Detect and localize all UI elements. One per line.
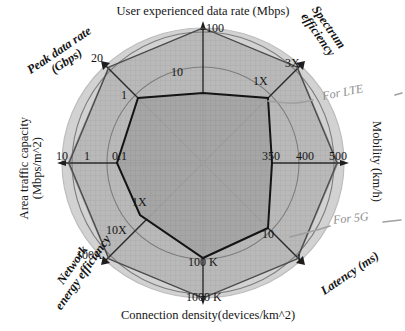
tick-connection-density-outer: 1000 K <box>186 291 222 304</box>
tick-mobility-500: 500 <box>329 150 347 163</box>
tick-atc-1: 1 <box>84 150 90 163</box>
axis-title-mobility: Mobility (km/h) <box>369 102 382 222</box>
axis-title-connection-density: Connection density(devices/km^2) <box>83 309 333 322</box>
area-traffic-line2: (Mbps/m^2) <box>31 93 44 243</box>
tick-mobility-350: 350 <box>262 150 280 163</box>
tick-atc-10: 10 <box>56 150 68 163</box>
radar-chart: User experienced data rate (Mbps) Spectr… <box>0 0 405 331</box>
tick-latency-outer: 1 <box>296 252 302 265</box>
tick-pdr-inner: 1 <box>121 89 127 102</box>
tick-udr-inner: 10 <box>171 66 183 79</box>
axis-title-area-traffic-capacity: Area traffic capacity (Mbps/m^2) <box>18 93 44 243</box>
tick-udr-outer: 100 <box>206 22 224 35</box>
tick-connection-density-inner: 100 K <box>188 256 218 269</box>
tick-se-outer: 3X <box>285 57 300 70</box>
tick-latency-inner: 10 <box>262 228 274 241</box>
tick-mobility-400: 400 <box>296 150 314 163</box>
tick-se-inner: 1X <box>253 75 268 88</box>
tick-atc-0-1: 0.1 <box>112 150 127 163</box>
tick-pdr-outer: 20 <box>91 52 103 65</box>
tick-nee-1x: 1X <box>132 196 147 209</box>
tick-nee-100x: 100X <box>76 249 103 262</box>
tick-nee-10x: 10X <box>106 224 127 237</box>
